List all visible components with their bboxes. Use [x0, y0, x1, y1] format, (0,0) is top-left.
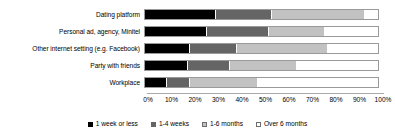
legend-swatch-icon	[88, 122, 93, 127]
category-label: Personal ad, agency, Minitel	[0, 28, 144, 35]
legend-label: Over 6 months	[264, 120, 307, 128]
x-axis-tick-label: 40%	[235, 96, 248, 104]
bar-track	[144, 26, 379, 37]
bar-segment[interactable]	[145, 44, 189, 53]
bar-segment[interactable]	[215, 10, 271, 19]
chart-legend: 1 week or less1-4 weeks1-6 monthsOver 6 …	[0, 120, 395, 128]
bar-row: Party with friends	[0, 57, 395, 74]
bar-segment[interactable]	[189, 78, 257, 87]
x-axis-tick-label: 60%	[282, 96, 295, 104]
x-axis-tick-label: 30%	[212, 96, 225, 104]
category-label: Workplace	[0, 79, 144, 86]
bar-segment[interactable]	[257, 78, 378, 87]
legend-swatch-icon	[256, 122, 261, 127]
bar-track	[144, 9, 379, 20]
bar-segment[interactable]	[296, 61, 378, 70]
stacked-bar-chart: Dating platformPersonal ad, agency, Mini…	[0, 0, 395, 137]
bar-segment[interactable]	[206, 27, 269, 36]
legend-label: 1 week or less	[96, 120, 138, 128]
x-axis-tick-label: 20%	[188, 96, 201, 104]
bar-segment[interactable]	[327, 44, 378, 53]
legend-swatch-icon	[202, 122, 207, 127]
x-axis-tick-label: 90%	[353, 96, 366, 104]
bar-row: Dating platform	[0, 6, 395, 23]
bar-row: Workplace	[0, 74, 395, 91]
bar-segment[interactable]	[166, 78, 189, 87]
bar-segment[interactable]	[145, 61, 187, 70]
bar-segment[interactable]	[145, 27, 206, 36]
x-axis-tick-label: 10%	[165, 96, 178, 104]
plot-area: Dating platformPersonal ad, agency, Mini…	[0, 6, 395, 94]
bar-segment[interactable]	[324, 27, 378, 36]
bar-segment[interactable]	[236, 44, 327, 53]
bar-segment[interactable]	[145, 10, 215, 19]
legend-label: 1-4 weeks	[159, 120, 189, 128]
bar-segment[interactable]	[271, 10, 364, 19]
bar-segment[interactable]	[364, 10, 378, 19]
x-axis-tick-label: 80%	[329, 96, 342, 104]
bar-segment[interactable]	[189, 44, 236, 53]
bar-segment[interactable]	[229, 61, 297, 70]
bar-segment[interactable]	[268, 27, 324, 36]
legend-item[interactable]: 1-6 months	[202, 120, 243, 128]
x-axis: 0%10%20%30%40%50%60%70%80%90%100%	[148, 95, 383, 107]
bar-track	[144, 60, 379, 71]
bar-segment[interactable]	[187, 61, 229, 70]
bar-track	[144, 77, 379, 88]
bar-segment[interactable]	[145, 78, 166, 87]
bar-row: Personal ad, agency, Minitel	[0, 23, 395, 40]
x-axis-tick-label: 0%	[143, 96, 153, 104]
category-label: Party with friends	[0, 62, 144, 69]
legend-item[interactable]: Over 6 months	[256, 120, 307, 128]
bar-track	[144, 43, 379, 54]
legend-swatch-icon	[151, 122, 156, 127]
x-axis-line	[147, 93, 384, 94]
x-axis-tick-label: 70%	[306, 96, 319, 104]
legend-label: 1-6 months	[210, 120, 243, 128]
category-label: Dating platform	[0, 11, 144, 18]
x-axis-tick-label: 50%	[259, 96, 272, 104]
legend-item[interactable]: 1 week or less	[88, 120, 138, 128]
x-axis-tick-label: 100%	[375, 96, 392, 104]
category-label: Other internet setting (e.g. Facebook)	[0, 45, 144, 52]
legend-item[interactable]: 1-4 weeks	[151, 120, 189, 128]
bar-row: Other internet setting (e.g. Facebook)	[0, 40, 395, 57]
